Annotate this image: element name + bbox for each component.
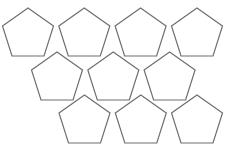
- pentagon-shape-row1-4: [172, 8, 223, 56]
- pentagon-shape-row3-8: [59, 95, 110, 143]
- pentagon-shape-row3-10: [172, 95, 223, 143]
- pentagon-shape-row3-9: [115, 95, 166, 143]
- pentagon-shape-row2-7: [144, 52, 195, 100]
- pentagon-shape-row1-3: [115, 8, 166, 56]
- pentagon-grid-diagram: [0, 0, 226, 144]
- pentagon-grid-svg: [0, 0, 226, 144]
- pentagon-shape-row1-1: [3, 8, 54, 56]
- pentagon-shape-row2-5: [32, 52, 83, 100]
- pentagon-shape-row2-6: [88, 52, 139, 100]
- pentagon-shape-row1-2: [59, 8, 110, 56]
